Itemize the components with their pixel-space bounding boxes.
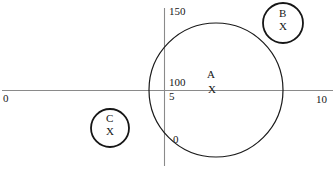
circle-c-label: C [106,113,113,124]
x-axis-max-label: 10 [316,94,327,105]
circle-c-marker: X [106,126,114,137]
circle-a-marker: X [208,84,216,95]
figure-canvas: 0 10 150 100 5 0 A X B X C X [0,0,335,169]
circle-a-label: A [207,69,215,80]
y-axis-tick-5: 5 [169,91,175,102]
circle-b-label: B [279,8,286,19]
circle-b-marker: X [279,21,287,32]
y-axis-tick-150: 150 [169,6,186,17]
x-axis-min-label: 0 [3,93,9,104]
y-axis-tick-0: 0 [173,134,179,145]
y-axis-tick-100: 100 [169,77,186,88]
